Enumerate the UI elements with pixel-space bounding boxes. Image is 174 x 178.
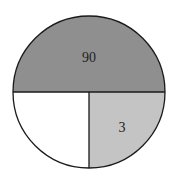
circle-diagram: 90 3: [0, 0, 174, 178]
label-top-half: 90: [82, 50, 96, 65]
region-bottom-right-quarter: [89, 92, 165, 168]
label-bottom-right: 3: [119, 120, 126, 135]
region-bottom-left-quarter: [13, 92, 89, 168]
